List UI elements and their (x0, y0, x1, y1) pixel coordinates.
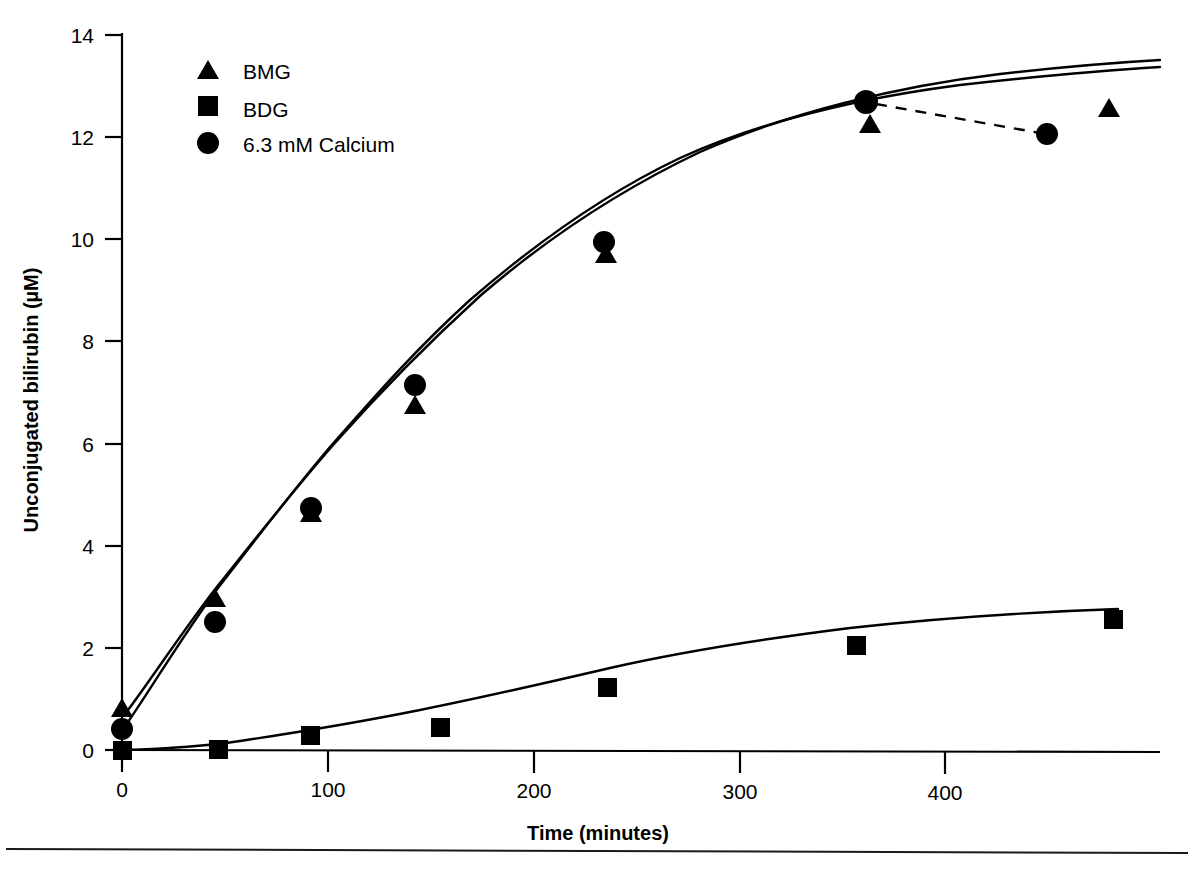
y-tick-label-4: 4 (82, 535, 94, 558)
x-axis-line (122, 750, 1160, 752)
bdg-point-0 (113, 741, 132, 760)
y-axis-title: Unconjugated bilirubin (µM) (20, 268, 42, 533)
x-tick-label-400: 400 (927, 781, 962, 804)
legend-circle-icon (197, 132, 219, 154)
x-tick-label-0: 0 (116, 778, 128, 801)
calcium-point-450 (1036, 123, 1058, 145)
y-tick-label-2: 2 (82, 637, 94, 660)
y-tick-label-8: 8 (82, 330, 94, 353)
bdg-fit-curve (124, 609, 1118, 750)
calcium-point-234 (593, 231, 615, 253)
x-tick-label-200: 200 (516, 779, 551, 802)
bdg-point-482 (1104, 610, 1123, 629)
x-axis-ticks: 0 100 200 300 400 (116, 750, 962, 804)
y-tick-label-0: 0 (82, 739, 94, 762)
bmg-point-480 (1098, 98, 1120, 117)
bmg-point-142 (404, 395, 426, 414)
legend-label-calcium: 6.3 mM Calcium (243, 133, 395, 156)
x-tick-label-100: 100 (310, 778, 345, 801)
y-tick-label-10: 10 (71, 228, 94, 251)
series-bmg-markers (111, 98, 1120, 717)
bdg-point-236 (598, 678, 617, 697)
bdg-point-90 (301, 726, 320, 745)
calcium-point-142 (404, 374, 426, 396)
x-axis-title: Time (minutes) (527, 822, 669, 844)
calcium-fit-curve (128, 67, 1160, 722)
footer-divider (6, 849, 1188, 853)
legend-square-icon (198, 96, 218, 116)
bilirubin-scatter-chart: 14 12 10 8 6 4 2 0 0 100 200 300 400 Tim… (0, 0, 1194, 878)
bmg-fit-curve (128, 60, 1160, 710)
y-axis-ticks: 14 12 10 8 6 4 2 0 (71, 24, 122, 762)
calcium-dashed-segment (876, 104, 1040, 133)
calcium-point-0 (111, 718, 133, 740)
legend: BMG BDG 6.3 mM Calcium (197, 60, 395, 156)
series-calcium-markers (111, 90, 1058, 740)
y-tick-label-6: 6 (82, 433, 94, 456)
x-tick-label-300: 300 (722, 780, 757, 803)
bmg-point-362 (859, 114, 881, 133)
bdg-point-45 (209, 740, 228, 759)
legend-label-bdg: BDG (243, 98, 289, 121)
legend-label-bmg: BMG (243, 60, 291, 83)
y-tick-label-12: 12 (71, 126, 94, 149)
y-tick-label-14: 14 (71, 24, 95, 47)
calcium-point-362 (854, 90, 878, 114)
legend-triangle-icon (197, 60, 219, 79)
figure-panel: 14 12 10 8 6 4 2 0 0 100 200 300 400 Tim… (0, 0, 1194, 878)
calcium-point-90 (300, 497, 322, 519)
bdg-point-155 (431, 718, 450, 737)
calcium-point-45 (204, 611, 226, 633)
bdg-point-357 (847, 636, 866, 655)
